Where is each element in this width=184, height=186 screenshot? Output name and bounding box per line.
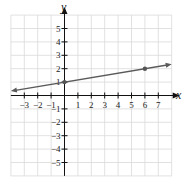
x-tick-label: 2 (89, 100, 94, 110)
y-axis-label: y (60, 0, 67, 14)
y-tick-label: −5 (51, 158, 61, 168)
data-point (62, 80, 66, 84)
x-tick-label: 6 (143, 100, 148, 110)
data-point (143, 67, 147, 71)
y-tick-label: −4 (51, 144, 61, 154)
x-tick-label: 4 (116, 100, 121, 110)
coordinate-plane-chart: −3−2−11234567−5−4−3−2−112345 x y (0, 0, 184, 186)
chart-svg: −3−2−11234567−5−4−3−2−112345 x y (0, 0, 184, 186)
y-tick-label: 1 (56, 77, 61, 87)
x-tick-label: −2 (33, 100, 43, 110)
x-tick-label: 7 (156, 100, 161, 110)
x-axis-label: x (175, 88, 182, 102)
x-tick-label: 1 (76, 100, 81, 110)
y-tick-label: −3 (51, 131, 61, 141)
y-tick-label: 2 (56, 64, 61, 74)
y-tick-label: 5 (56, 24, 61, 34)
y-tick-label: −2 (51, 117, 61, 127)
line-arrow-left-icon (11, 87, 17, 92)
line-arrow-right-icon (165, 63, 171, 68)
axes (11, 7, 180, 176)
x-tick-label: −3 (20, 100, 30, 110)
y-tick-label: 4 (56, 37, 61, 47)
y-tick-label: −1 (51, 104, 61, 114)
y-tick-label: 3 (56, 50, 61, 60)
x-tick-label: 5 (129, 100, 134, 110)
x-tick-label: 3 (102, 100, 107, 110)
